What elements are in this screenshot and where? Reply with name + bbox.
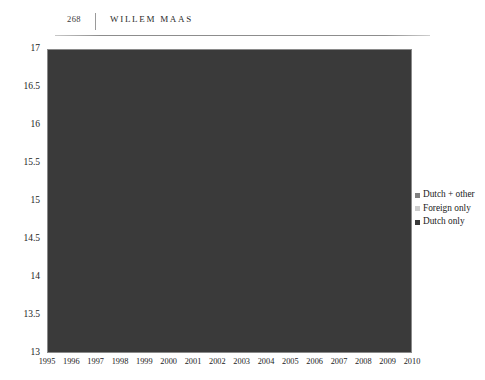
plot-area — [47, 49, 412, 353]
y-axis-tick-label: 14.5 — [10, 234, 40, 244]
legend-swatch-icon — [415, 206, 420, 211]
legend-swatch-icon — [415, 220, 420, 225]
x-axis-tick-label: 2010 — [395, 358, 429, 366]
legend-label: Foreign only — [423, 204, 471, 213]
chart-legend: Dutch + otherForeign onlyDutch only — [415, 189, 485, 230]
y-axis-tick-label: 13 — [10, 348, 40, 358]
legend-item: Dutch + other — [415, 189, 485, 201]
y-axis-tick-label: 16.5 — [10, 82, 40, 92]
stacked-area-chart: 1313.51414.51515.51616.517 1995199619971… — [0, 0, 485, 380]
y-axis-tick-label: 17 — [10, 44, 40, 54]
y-axis-tick-label: 13.5 — [10, 310, 40, 320]
page: 268 WILLEM MAAS 1313.51414.51515.51616.5… — [0, 0, 485, 380]
legend-label: Dutch only — [423, 217, 465, 226]
area-series — [48, 50, 411, 352]
y-axis-tick-label: 14 — [10, 272, 40, 282]
legend-swatch-icon — [415, 193, 420, 198]
plot-svg — [48, 50, 411, 352]
y-axis-tick-label: 15.5 — [10, 158, 40, 168]
y-axis-tick-label: 15 — [10, 196, 40, 206]
y-axis-tick-label: 16 — [10, 120, 40, 130]
legend-item: Foreign only — [415, 203, 485, 215]
legend-item: Dutch only — [415, 216, 485, 228]
legend-label: Dutch + other — [423, 190, 475, 199]
